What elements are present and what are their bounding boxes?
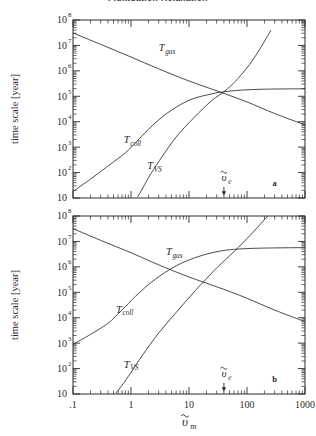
panel-b-ytick-labels: 10102103104105106107108 [57, 207, 72, 399]
xtick-label: 1000 [295, 399, 315, 410]
ytick-label-exponent: 8 [68, 207, 72, 214]
panel-b-ticks [73, 216, 305, 394]
panel-a: 10102103104105106107108time scale [year]… [9, 11, 305, 203]
panel-b: 10102103104105106107108time scale [year]… [9, 207, 305, 399]
ytick-label: 10 [57, 142, 67, 153]
ytick-label: 10 [57, 91, 67, 102]
ytick-label: 10 [57, 167, 67, 178]
ytick-label-exponent: 7 [68, 233, 72, 240]
ytick-label-exponent: 4 [68, 309, 72, 316]
marker-ve-a: υe [221, 171, 233, 186]
panel-letter-a: a [273, 178, 278, 188]
panel-a-frame [73, 20, 305, 198]
ytick-label: 10 [57, 65, 67, 76]
ytick-label: 10 [57, 40, 67, 51]
curve-t-coll [73, 248, 305, 345]
ytick-label: 10 [57, 14, 67, 25]
panel-letter-b: b [272, 374, 277, 384]
panel-a-ticks [73, 20, 305, 198]
ytick-label-exponent: 2 [68, 164, 72, 171]
curve-label-t-coll-subscript: coll [130, 140, 141, 148]
ytick-label-exponent: 8 [68, 11, 72, 18]
figure-root: Fluktuation Relaxation 10102103104105106… [0, 0, 316, 436]
xtick-label: 100 [240, 399, 255, 410]
curve-label-t-vs-subscript: VS [130, 364, 138, 372]
xtick-label: .1 [69, 399, 77, 410]
ytick-label-exponent: 5 [68, 88, 72, 95]
curve-label-t-vs-subscript: VS [154, 166, 162, 174]
panel-b-ylabel: time scale [year] [9, 270, 20, 340]
figure-canvas: 10102103104105106107108time scale [year]… [0, 0, 316, 436]
marker-ve-b: υe [221, 367, 233, 382]
curve-label-t-gas: Tgas [159, 42, 176, 56]
xtick-labels: .11101001000 [69, 399, 315, 410]
panel-a-curves: TgasTcollTVS [73, 30, 305, 197]
curve-label-t-gas-subscript: gas [173, 252, 183, 260]
ytick-label: 10 [57, 338, 67, 349]
curve-t-gas [73, 229, 305, 322]
ytick-label: 10 [57, 312, 67, 323]
panel-b-frame [73, 216, 305, 394]
curve-label-t-coll-subscript: coll [123, 309, 134, 317]
curve-label-t-gas: Tgas [166, 246, 183, 260]
ytick-label: 10 [57, 363, 67, 374]
marker-ve-a-subscript: e [228, 178, 232, 186]
ytick-label-exponent: 6 [68, 62, 72, 69]
curve-t-gas [73, 33, 305, 125]
curve-label-t-gas-subscript: gas [165, 48, 175, 56]
ytick-label: 10 [57, 388, 67, 399]
ytick-label-exponent: 6 [68, 258, 72, 265]
ytick-label-exponent: 3 [68, 139, 72, 146]
figure-title: Fluktuation Relaxation [0, 0, 316, 3]
ytick-label: 10 [57, 261, 67, 272]
xtick-label: 1 [129, 399, 134, 410]
xlabel-vm: υm [181, 414, 196, 431]
xlabel-vm-subscript: m [190, 421, 196, 431]
ytick-label-exponent: 7 [68, 37, 72, 44]
ytick-label: 10 [57, 116, 67, 127]
ytick-label-exponent: 5 [68, 284, 72, 291]
ytick-label-exponent: 3 [68, 335, 72, 342]
marker-arrow-head [222, 191, 226, 195]
panel-a-ylabel: time scale [year] [9, 74, 20, 144]
curve-label-t-vs: TVS [124, 359, 139, 373]
ytick-label-exponent: 4 [68, 113, 72, 120]
ytick-label: 10 [57, 236, 67, 247]
curve-t-coll [73, 89, 305, 192]
panel-a-ytick-labels: 10102103104105106107108 [57, 11, 72, 203]
ytick-label: 10 [57, 192, 67, 203]
marker-ve-b-subscript: e [228, 374, 232, 382]
panel-b-curves: TgasTcollTVS [73, 208, 305, 393]
marker-arrow-head [222, 387, 226, 391]
curve-t-vs [116, 208, 275, 393]
ytick-label-exponent: 2 [68, 360, 72, 367]
curve-label-t-vs: TVS [147, 160, 162, 174]
curve-label-t-coll: Tcoll [124, 134, 141, 148]
ytick-label: 10 [57, 210, 67, 221]
ytick-label: 10 [57, 287, 67, 298]
curve-label-t-coll: Tcoll [116, 304, 133, 318]
xtick-label: 10 [184, 399, 194, 410]
